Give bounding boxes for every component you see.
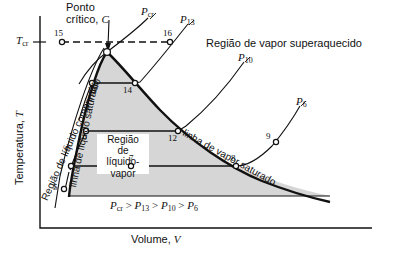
- t-v-diagram-figure: Ponto crítico, C Região de vapor superaq…: [0, 0, 394, 256]
- y-axis-label: Temperatura, T: [14, 111, 26, 185]
- pressure-inequality-label: Pcr > P13 > P10 > P6: [110, 200, 198, 213]
- state-point-5: [61, 186, 66, 191]
- state-point-number-8: 8: [231, 154, 236, 163]
- critical-point-symbol: C: [101, 13, 108, 25]
- mixture-region-line3: líquido-: [99, 156, 147, 167]
- state-point-C: [104, 49, 111, 56]
- x-axis-label: Volume, V: [131, 234, 181, 246]
- isobar-label-p-13: P13: [180, 14, 195, 27]
- superheated-region-label: Região de vapor superaquecido: [206, 38, 362, 50]
- mixture-region-line4: vapor: [99, 168, 147, 179]
- state-point-number-9: 9: [266, 132, 271, 141]
- critical-point-callout: Ponto crítico, C: [66, 2, 109, 25]
- mixture-region-line2: de: [99, 145, 147, 156]
- mixture-region-label: Região de líquido- vapor: [99, 134, 147, 179]
- state-point-number-5: 5: [53, 183, 58, 192]
- state-point-16: [167, 39, 172, 44]
- state-point-number-15: 15: [54, 29, 63, 38]
- critical-point-line2: crítico, C: [66, 14, 109, 26]
- isobar-label-p-6: P6: [296, 96, 307, 109]
- state-point-number-12: 12: [168, 134, 177, 143]
- y-tick-label-tcr: Tcr: [16, 35, 28, 48]
- isobar-label-p-cr: Pcr: [141, 6, 154, 19]
- state-point-number-14: 14: [123, 86, 132, 95]
- state-point-number-16: 16: [163, 29, 172, 38]
- state-point-9: [273, 139, 278, 144]
- mixture-region-line1: Região: [99, 134, 147, 145]
- state-point-number-7: 7: [129, 154, 134, 163]
- state-point-15: [59, 39, 64, 44]
- isobar-label-p-10: P10: [238, 52, 253, 65]
- state-point-number-13: 13: [87, 86, 96, 95]
- state-point-number-10: 10: [78, 133, 87, 142]
- state-point-14: [132, 80, 137, 85]
